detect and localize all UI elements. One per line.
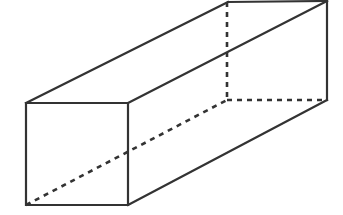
front-face — [26, 103, 128, 205]
edge-back-face-top — [228, 1, 327, 2]
figure-canvas — [0, 0, 343, 215]
rectangular-prism-diagram — [0, 0, 343, 215]
